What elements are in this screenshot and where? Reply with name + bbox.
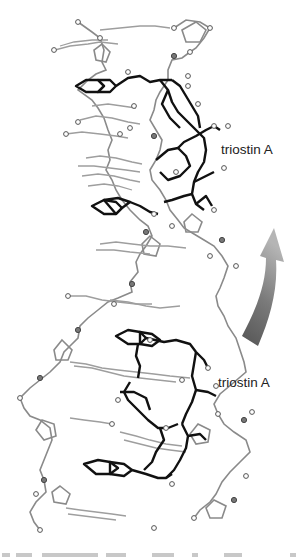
label-triostin-a-upper: triostin A — [221, 142, 273, 157]
caption-fragment — [42, 553, 98, 557]
atom-spheres — [18, 20, 255, 533]
curved-arrow — [242, 228, 284, 346]
triostin-a-ligand — [76, 76, 220, 478]
dna-base-pairs — [55, 26, 190, 520]
dna-backbone — [20, 20, 250, 530]
caption-fragment — [290, 553, 296, 557]
caption-fragment — [2, 553, 10, 557]
caption-fragment — [16, 553, 32, 557]
label-triostin-a-lower: triostin A — [218, 375, 270, 390]
caption-fragment — [106, 553, 126, 557]
caption-fragment — [192, 553, 198, 557]
caption-fragment — [152, 553, 174, 557]
dna-triostin-structure-figure — [0, 0, 302, 545]
figure-caption-cutoff — [2, 551, 298, 559]
caption-fragment — [224, 553, 242, 557]
phosphate-atoms — [37, 53, 246, 502]
